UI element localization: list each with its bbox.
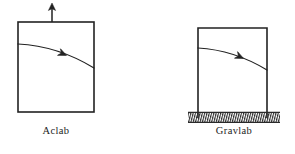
hatched-ground-fill — [188, 112, 280, 123]
panel-label-aclab: Aclab — [0, 126, 112, 137]
physics-figure: Aclab Gravlab — [0, 0, 295, 154]
hatched-ground — [188, 112, 280, 123]
panel-label-gravlab: Gravlab — [178, 126, 290, 137]
